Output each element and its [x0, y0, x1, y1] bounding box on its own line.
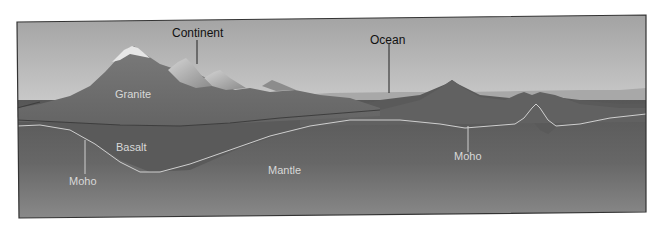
basalt-label: Basalt	[116, 141, 147, 153]
continent-label: Continent	[172, 26, 224, 40]
ocean-label: Ocean	[370, 33, 405, 47]
cross-section-figure: Continent Ocean Granite Basalt Mantle Mo…	[0, 0, 662, 226]
moho-left-label: Moho	[69, 175, 97, 187]
moho-right-label: Moho	[454, 150, 482, 162]
mantle-label: Mantle	[268, 164, 301, 176]
cross-section-svg: Continent Ocean Granite Basalt Mantle Mo…	[0, 0, 662, 226]
granite-label: Granite	[115, 88, 151, 100]
